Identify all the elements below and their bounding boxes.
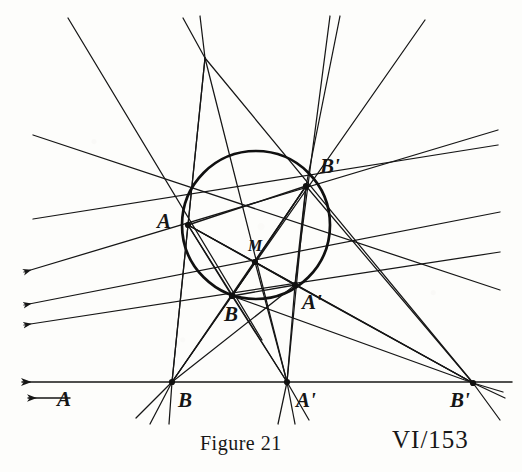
- label-circle-A: A: [157, 211, 171, 232]
- transversal-lines: [24, 130, 500, 325]
- label-circle-A-prime: A': [302, 292, 322, 313]
- label-axis-A-prime: A': [296, 390, 316, 411]
- main-circle: [182, 151, 330, 299]
- pencil-axis-A-prime: [188, 186, 309, 424]
- point-markers: [169, 183, 476, 386]
- label-circle-B: B: [224, 304, 238, 325]
- geometry-drawing: [0, 0, 522, 472]
- label-axis-B: B: [178, 390, 192, 411]
- label-circle-B-prime: B': [320, 156, 340, 177]
- label-axis-B-prime: B': [450, 390, 470, 411]
- label-axis-A: A: [57, 389, 71, 410]
- plate-reference: VI/153: [392, 427, 469, 452]
- label-circle-M: M: [248, 238, 262, 254]
- axis-line: [22, 382, 512, 398]
- figure-caption: Figure 21: [200, 433, 282, 453]
- figure-plate: A B' M B A' A B A' B' Figure 21 VI/153: [0, 0, 522, 472]
